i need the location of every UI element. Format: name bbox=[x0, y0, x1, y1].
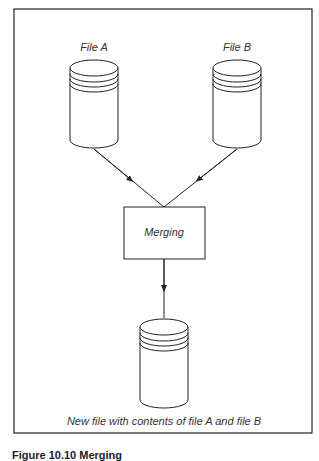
file-a-cylinder-icon bbox=[70, 60, 118, 148]
file-b-label: File B bbox=[223, 41, 251, 53]
file-a-label: File A bbox=[80, 41, 108, 53]
output-label: New file with contents of file A and fil… bbox=[67, 415, 261, 427]
figure-caption: Figure 10.10 Merging bbox=[12, 449, 122, 461]
arrow-a-to-merging bbox=[94, 149, 164, 207]
arrow-b-to-merging bbox=[164, 149, 237, 207]
file-b-cylinder-icon bbox=[213, 60, 261, 148]
output-cylinder-icon bbox=[140, 319, 188, 408]
merging-label: Merging bbox=[144, 226, 184, 238]
